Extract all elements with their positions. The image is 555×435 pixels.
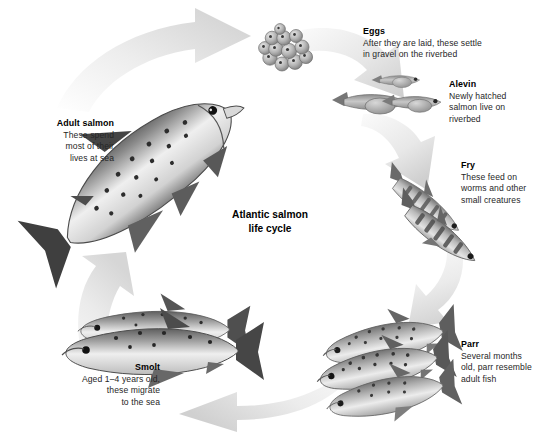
label-eggs-heading: Eggs: [363, 26, 553, 37]
label-alevin-heading: Alevin: [449, 79, 553, 90]
label-smolt: Smolt Aged 1–4 years old, these migrate …: [28, 362, 160, 408]
label-alevin: Alevin Newly hatched salmon live on rive…: [449, 79, 553, 125]
label-fry-heading: Fry: [461, 160, 555, 171]
label-parr-body-line-3: adult fish: [461, 374, 555, 385]
label-smolt-body-line-1: Aged 1–4 years old,: [28, 374, 160, 385]
parr-illustration: [312, 312, 462, 432]
label-smolt-heading: Smolt: [28, 362, 160, 373]
label-adult-salmon-body-line-2: most of their: [10, 141, 114, 152]
label-parr-heading: Parr: [461, 339, 555, 350]
label-adult-salmon-heading: Adult salmon: [10, 118, 114, 129]
diagram-title-line-2: life cycle: [248, 223, 291, 234]
label-smolt-body-line-3: to the sea: [28, 397, 160, 408]
label-adult-salmon-body-line-1: These spend: [10, 130, 114, 141]
label-alevin-body-line-3: riverbed: [449, 114, 553, 125]
diagram-title-line-1: Atlantic salmon: [232, 209, 308, 220]
label-fry: Fry These feed on worms and other small …: [461, 160, 555, 206]
eggs-illustration: [256, 24, 320, 76]
label-eggs-body-line-1: After they are laid, these settle: [363, 38, 553, 49]
label-adult-salmon: Adult salmon These spend most of their l…: [10, 118, 114, 164]
label-fry-body-line-3: small creatures: [461, 195, 555, 206]
label-smolt-body-line-2: these migrate: [28, 385, 160, 396]
salmon-life-cycle-diagram: Eggs After they are laid, these settle i…: [0, 0, 555, 435]
label-fry-body-line-1: These feed on: [461, 172, 555, 183]
label-adult-salmon-body-line-3: lives at sea: [10, 153, 114, 164]
alevin-illustration: [326, 70, 442, 128]
diagram-title: Atlantic salmon life cycle: [200, 208, 340, 235]
label-parr-body-line-2: old, parr resemble: [461, 362, 555, 373]
label-alevin-body-line-2: salmon live on: [449, 102, 553, 113]
label-alevin-body-line-1: Newly hatched: [449, 91, 553, 102]
arrow-adult-to-eggs: [55, 8, 290, 113]
label-parr: Parr Several months old, parr resemble a…: [461, 339, 555, 385]
label-fry-body-line-2: worms and other: [461, 183, 555, 194]
label-parr-body-line-1: Several months: [461, 351, 555, 362]
label-eggs-body-line-2: in gravel on the riverbed: [363, 49, 553, 60]
label-eggs: Eggs After they are laid, these settle i…: [363, 26, 553, 61]
